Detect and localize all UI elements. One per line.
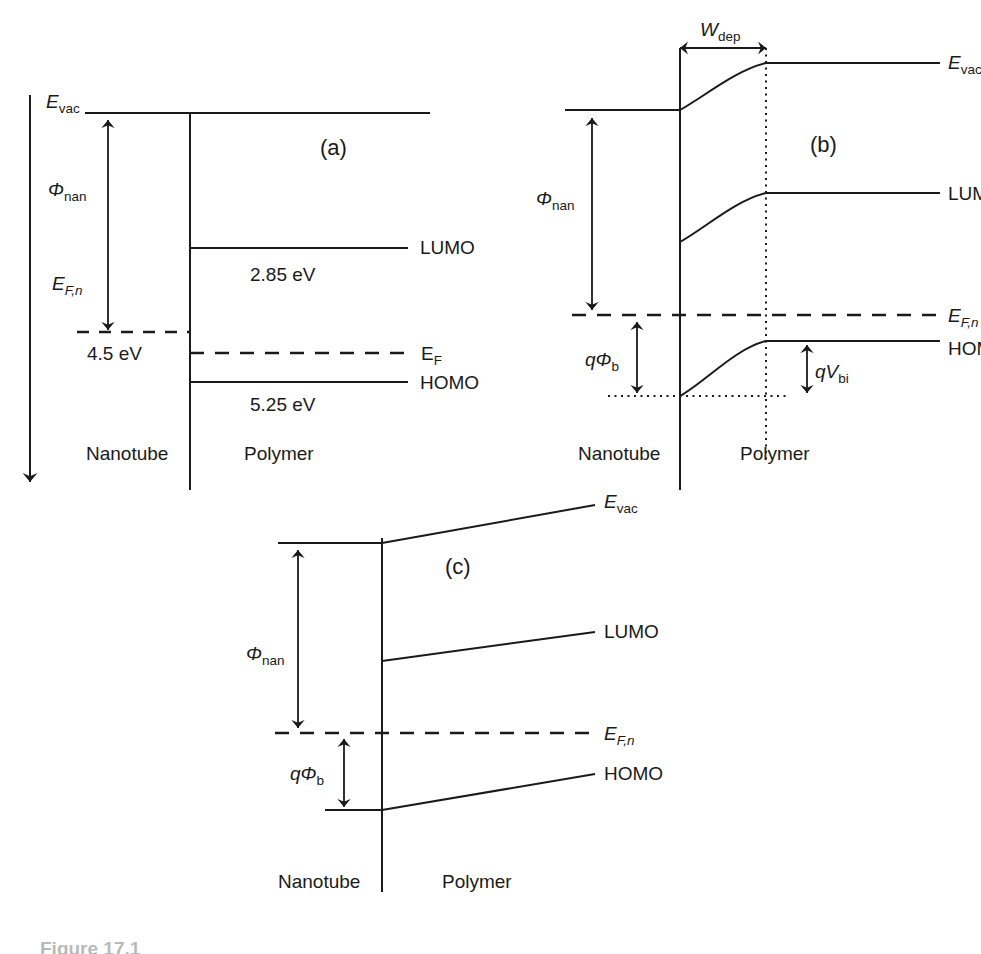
region-nanotube-a: Nanotube: [86, 443, 168, 464]
homo-label-c: HOMO: [604, 763, 663, 784]
region-nanotube-b: Nanotube: [578, 443, 660, 464]
panel-label-b: (b): [810, 132, 837, 157]
panel-a: Evac Φnan EF,n 4.5 eV (a) LUMO 2.85 eV E…: [0, 0, 500, 510]
q-phi-b-label: qΦb: [585, 349, 619, 374]
phi-nan-label-b: Φnan: [536, 188, 574, 213]
panel-label-c: (c): [445, 554, 471, 579]
homo-label-a: HOMO: [420, 372, 479, 393]
homo-slope-c: [382, 774, 595, 810]
wdep-label: Wdep: [700, 19, 740, 44]
q-phi-b-label-c: qΦb: [290, 763, 324, 788]
region-polymer-b: Polymer: [740, 443, 810, 464]
figure-caption: Figure 17.1: [40, 938, 140, 954]
work-function-value-a: 4.5 eV: [87, 343, 142, 364]
lumo-label-b: LUMO: [948, 183, 981, 204]
panel-label-a: (a): [320, 135, 347, 160]
lumo-label-a: LUMO: [420, 237, 475, 258]
ef-label-a: EF: [421, 343, 442, 368]
evac-curve-b: [680, 63, 766, 110]
phi-nan-label-a: Φnan: [48, 179, 86, 204]
lumo-value-a: 2.85 eV: [250, 264, 316, 285]
region-polymer-c: Polymer: [442, 871, 512, 892]
panel-b: Wdep Φnan qΦb: [500, 0, 981, 510]
ef-n-label-a: EF,n: [52, 273, 82, 298]
panel-c: Φnan qΦb Evac LUMO EF,n HOMO (c) Nanotub…: [220, 480, 720, 920]
ef-n-label-b: EF,n: [948, 305, 978, 330]
lumo-curve-b: [680, 193, 766, 242]
homo-label-b: HOMO: [948, 338, 981, 359]
homo-value-a: 5.25 eV: [250, 394, 316, 415]
ef-n-label-c: EF,n: [604, 723, 634, 748]
region-polymer-a: Polymer: [244, 443, 314, 464]
evac-label-b: Evac: [948, 52, 981, 77]
evac-label-c: Evac: [604, 491, 638, 516]
lumo-label-c: LUMO: [604, 621, 659, 642]
lumo-slope-c: [382, 632, 595, 661]
figure-root: Evac Φnan EF,n 4.5 eV (a) LUMO 2.85 eV E…: [0, 0, 981, 954]
q-v-bi-label: qVbi: [815, 361, 849, 386]
evac-label-a: Evac: [46, 91, 80, 116]
phi-nan-label-c: Φnan: [246, 643, 284, 668]
region-nanotube-c: Nanotube: [278, 871, 360, 892]
evac-slope-c: [382, 505, 595, 543]
homo-curve-b: [680, 341, 766, 396]
